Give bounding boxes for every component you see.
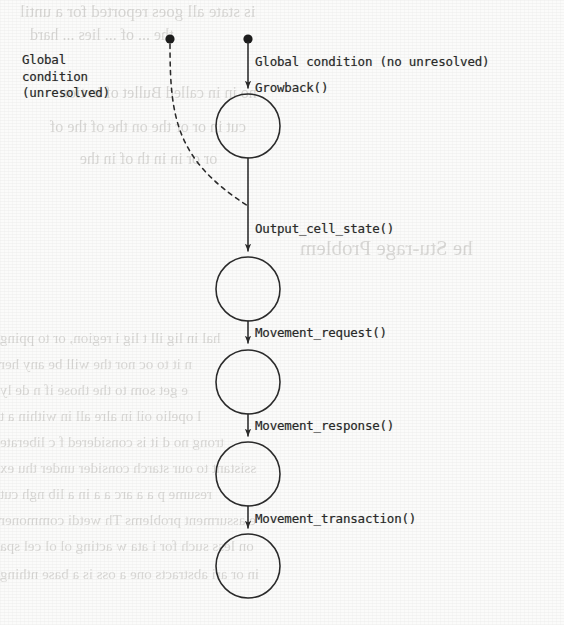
state-node-5: [216, 534, 280, 598]
label-global-condition-no-unresolved: Global condition (no unresolved): [255, 54, 489, 71]
label-output-cell-state: Output_cell_state(): [255, 221, 394, 238]
state-node-4: [216, 442, 280, 506]
label-growback: Growback(): [255, 80, 328, 97]
edge-unresolved-feedback: [170, 44, 248, 206]
label-global-condition-unresolved: Global condition (unresolved): [22, 52, 110, 102]
figure-canvas: is state all goes reported for a untilth…: [0, 0, 564, 625]
label-movement-request: Movement_request(): [255, 325, 387, 342]
dashed-start-dot: [165, 34, 174, 43]
state-node-3: [216, 350, 280, 414]
label-movement-response: Movement_response(): [255, 418, 394, 435]
state-node-1: [216, 94, 280, 158]
state-node-2: [216, 257, 280, 321]
label-movement-transaction: Movement_transaction(): [255, 511, 416, 528]
